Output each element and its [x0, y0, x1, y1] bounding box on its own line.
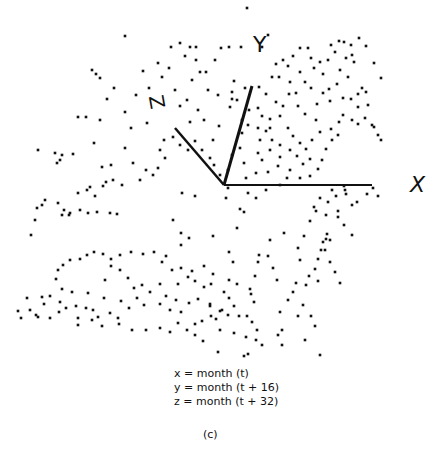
- data-point: [152, 174, 155, 177]
- data-point: [380, 139, 383, 142]
- data-point: [169, 309, 172, 312]
- data-point: [58, 311, 61, 314]
- data-point: [295, 282, 298, 285]
- data-point: [334, 271, 337, 274]
- data-point: [315, 119, 318, 122]
- data-point: [212, 235, 215, 238]
- data-point: [265, 189, 268, 192]
- data-point: [297, 247, 300, 250]
- data-point: [377, 195, 380, 198]
- data-point: [94, 195, 97, 198]
- data-point: [299, 71, 302, 74]
- data-point: [331, 189, 334, 192]
- data-point: [317, 280, 320, 283]
- data-point: [345, 57, 348, 60]
- data-point: [225, 197, 228, 200]
- data-point: [135, 94, 138, 97]
- data-point: [281, 329, 284, 332]
- data-point: [87, 292, 90, 295]
- data-point: [257, 261, 260, 264]
- data-point: [325, 148, 328, 151]
- data-point: [86, 254, 89, 257]
- data-point: [297, 105, 300, 108]
- data-point: [353, 61, 356, 64]
- data-point: [195, 59, 198, 62]
- data-point: [236, 99, 239, 102]
- caption-y: y = month (t + 16): [174, 381, 279, 395]
- data-point: [311, 139, 314, 142]
- data-point: [102, 253, 105, 256]
- data-point: [181, 192, 184, 195]
- data-point: [329, 261, 332, 264]
- data-point: [201, 149, 204, 152]
- data-point: [199, 71, 202, 74]
- data-point: [279, 156, 282, 159]
- data-point: [194, 280, 197, 283]
- data-point: [228, 251, 231, 254]
- data-point: [191, 79, 194, 82]
- data-point: [172, 219, 175, 222]
- data-point: [49, 295, 52, 298]
- data-point: [287, 127, 290, 130]
- data-point: [265, 93, 268, 96]
- data-point: [143, 304, 146, 307]
- data-point: [317, 258, 320, 261]
- data-point: [365, 45, 368, 48]
- data-point: [342, 114, 345, 117]
- data-point: [357, 106, 360, 109]
- data-point: [228, 297, 231, 300]
- data-point: [219, 310, 222, 313]
- data-point: [233, 80, 236, 83]
- data-point: [130, 251, 133, 254]
- data-point: [62, 264, 65, 267]
- data-point: [186, 99, 189, 102]
- data-point: [92, 309, 95, 312]
- data-point: [159, 327, 162, 330]
- data-point: [197, 298, 200, 301]
- data-point: [202, 340, 205, 343]
- data-point: [197, 109, 200, 112]
- data-point: [57, 202, 60, 205]
- data-point: [61, 288, 64, 291]
- data-point: [218, 125, 221, 128]
- data-point: [267, 34, 270, 37]
- data-point: [275, 63, 278, 66]
- data-point: [124, 111, 127, 114]
- data-point: [174, 89, 177, 92]
- data-point: [172, 136, 175, 139]
- data-point: [256, 329, 259, 332]
- data-point: [170, 46, 173, 49]
- data-point: [351, 234, 354, 237]
- data-point: [322, 241, 325, 244]
- data-point: [313, 206, 316, 209]
- data-point: [57, 269, 60, 272]
- data-point: [305, 148, 308, 151]
- data-point: [236, 283, 239, 286]
- data-point: [357, 123, 360, 126]
- data-point: [17, 310, 20, 313]
- data-point: [231, 91, 234, 94]
- data-point: [79, 258, 82, 261]
- data-point: [209, 157, 212, 160]
- data-point: [113, 87, 116, 90]
- data-point: [119, 269, 122, 272]
- data-point: [324, 249, 327, 252]
- data-point: [287, 65, 290, 68]
- data-point: [319, 354, 322, 357]
- data-point: [269, 149, 272, 152]
- data-point: [77, 317, 80, 320]
- data-point: [317, 168, 320, 171]
- data-point: [118, 323, 121, 326]
- data-point: [65, 307, 68, 310]
- data-point: [179, 42, 182, 45]
- data-point: [367, 104, 370, 107]
- data-point: [106, 98, 109, 101]
- data-point: [282, 105, 285, 108]
- data-points: [17, 7, 383, 360]
- data-point: [339, 69, 342, 72]
- data-point: [279, 311, 282, 314]
- data-point: [29, 309, 32, 312]
- data-point: [342, 97, 345, 100]
- data-point: [249, 288, 252, 291]
- data-point: [232, 261, 235, 264]
